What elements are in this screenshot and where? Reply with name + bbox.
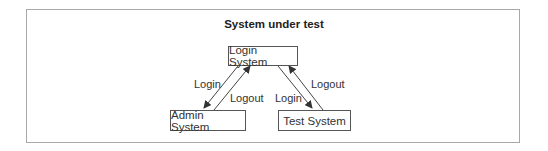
- login-system-label: Login System: [229, 44, 297, 68]
- edge-label-test-logout: Logout: [311, 78, 345, 90]
- connector-arrows: [0, 0, 548, 151]
- login-system-node: Login System: [228, 46, 298, 66]
- admin-system-label: Admin System: [171, 109, 245, 133]
- test-system-label: Test System: [283, 115, 346, 127]
- test-system-node: Test System: [278, 110, 351, 131]
- admin-system-node: Admin System: [170, 110, 246, 131]
- edge-label-admin-logout: Logout: [230, 92, 264, 104]
- edge-label-test-login: Login: [275, 92, 302, 104]
- edge-label-admin-login: Login: [194, 78, 221, 90]
